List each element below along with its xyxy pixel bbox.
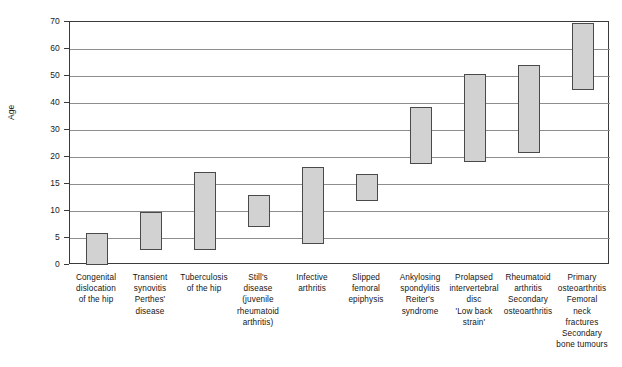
x-axis-label-5: Infective arthritis [282,272,342,294]
gridline-60 [70,49,610,50]
bar-5 [302,167,324,244]
gridline-20 [70,157,610,158]
x-axis-label-8: Prolapsed intervertebral disc 'Low back … [444,272,504,328]
y-tick-label-60: 60 [38,43,60,53]
y-tick-label-70: 70 [38,16,60,26]
y-axis-title: Age [6,105,16,120]
bar-9 [518,65,540,153]
y-tick-label-15: 15 [38,178,60,188]
plot-area [69,21,609,264]
y-tick-label-40: 40 [38,97,60,107]
bar-6 [356,174,378,200]
bar-1 [86,233,108,265]
x-axis-label-3: Tuberculosis of the hip [174,272,234,294]
y-tick-label-10: 10 [38,205,60,215]
x-axis-label-2: Transient synovitis Perthes' disease [120,272,180,317]
y-tick-label-30: 30 [38,124,60,134]
x-axis-label-6: Slipped femoral epiphysis [336,272,396,306]
x-axis-label-7: Ankylosing spondylitis Reiter's syndrome [390,272,450,317]
y-tick-label-0: 0 [38,259,60,269]
bar-4 [248,195,270,227]
x-axis-label-10: Primary osteoarthritis Femoral neck frac… [552,272,612,350]
bar-8 [464,74,486,162]
y-tick-mark-0 [64,264,69,265]
x-axis-label-9: Rheumatoid arthritis Secondary osteoarth… [498,272,558,317]
gridline-15 [70,184,610,185]
bar-7 [410,107,432,164]
bar-3 [194,172,216,250]
y-tick-label-20: 20 [38,151,60,161]
age-range-chart: Age 051015203040506070 Congenital disloc… [0,0,622,367]
y-tick-label-50: 50 [38,70,60,80]
bar-10 [572,23,594,90]
x-axis-label-4: Still's disease (juvenile rheumatoid art… [228,272,288,328]
y-tick-label-5: 5 [38,232,60,242]
bar-2 [140,212,162,250]
x-axis-label-1: Congenital dislocation of the hip [66,272,126,306]
